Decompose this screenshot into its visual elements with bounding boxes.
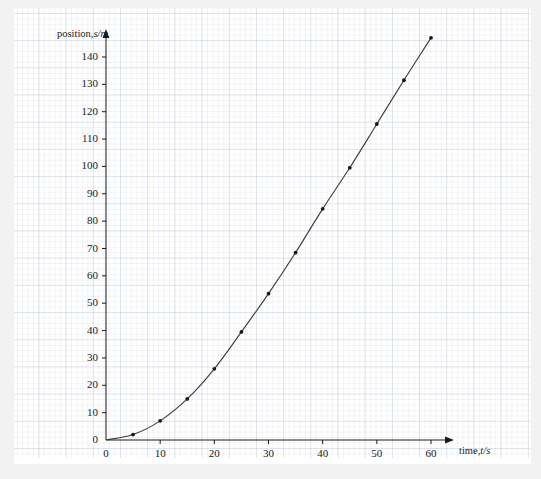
- y-axis-tick-label: 40: [66, 325, 98, 336]
- data-point: [158, 419, 162, 423]
- y-axis-title: position,s/m: [57, 29, 108, 40]
- y-axis-tick-label: 10: [66, 407, 98, 418]
- x-axis-title: time,t/s: [459, 446, 490, 457]
- data-point: [294, 251, 298, 255]
- x-axis-title-symbol: t/s: [480, 445, 490, 456]
- x-axis-tick-label: 20: [199, 448, 229, 459]
- axes: [102, 29, 454, 444]
- chart-screenshot: 0102030405060708090100110120130140010203…: [0, 0, 541, 479]
- data-point: [267, 292, 271, 296]
- y-axis-tick-label: 120: [66, 106, 98, 117]
- y-axis-title-text: position,: [57, 28, 93, 39]
- data-point: [131, 433, 135, 437]
- y-axis-title-symbol: s/m: [93, 28, 108, 39]
- bottom-margin-strip: [0, 464, 541, 479]
- y-axis-tick-label: 20: [66, 379, 98, 390]
- data-point-markers: [131, 36, 433, 436]
- data-point: [375, 122, 379, 126]
- x-axis-tick-label: 30: [254, 448, 284, 459]
- x-axis-ticks: [160, 440, 431, 444]
- y-axis-tick-label: 130: [66, 78, 98, 89]
- y-axis-ticks: [102, 57, 106, 413]
- x-axis-tick-label: 60: [416, 448, 446, 459]
- x-axis-tick-label: 10: [145, 448, 175, 459]
- x-axis-arrow-icon: [445, 437, 454, 444]
- data-point: [402, 78, 406, 82]
- data-series-group: [106, 36, 433, 440]
- data-point: [212, 367, 216, 371]
- y-axis-tick-label: 50: [66, 297, 98, 308]
- data-curve: [106, 38, 431, 440]
- x-axis-tick-label: 40: [308, 448, 338, 459]
- data-point: [185, 397, 189, 401]
- data-point: [240, 330, 244, 334]
- data-point: [429, 36, 433, 40]
- y-axis-tick-label: 70: [66, 243, 98, 254]
- x-axis-tick-label: 50: [362, 448, 392, 459]
- y-axis-tick-label: 30: [66, 352, 98, 363]
- data-point: [348, 166, 352, 170]
- y-axis-tick-label: 140: [66, 51, 98, 62]
- y-axis-tick-label: 60: [66, 270, 98, 281]
- x-axis-tick-label: 0: [91, 448, 121, 459]
- y-axis-tick-label: 0: [66, 434, 98, 445]
- y-axis-tick-label: 90: [66, 188, 98, 199]
- y-axis-tick-label: 80: [66, 215, 98, 226]
- y-axis-tick-label: 110: [66, 133, 98, 144]
- x-axis-title-text: time,: [459, 445, 480, 456]
- data-point: [321, 207, 325, 211]
- y-axis-tick-label: 100: [66, 160, 98, 171]
